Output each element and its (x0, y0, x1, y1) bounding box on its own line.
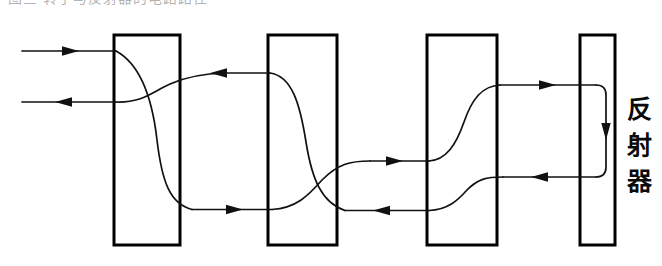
reflector-label-char-3: 器 (622, 164, 656, 200)
rotor-reflector-diagram: 图三 转子与反射器的电路路径 (0, 0, 662, 266)
rotor-2-block[interactable] (268, 35, 337, 245)
path-rotor3-upper-rise (429, 85, 500, 161)
reflector-return-arrow-icon (531, 172, 548, 181)
r1-r2-lower-arrow-icon (226, 205, 243, 214)
reflector-block[interactable] (580, 35, 615, 245)
rotor-3-block[interactable] (427, 35, 497, 245)
reflector-label-char-1: 反 (622, 92, 656, 128)
r1-r2-upper-arrow-icon (210, 68, 227, 77)
input-arrow-icon (62, 46, 79, 55)
reflector-label-char-2: 射 (622, 128, 656, 164)
rotor-blocks (114, 35, 615, 245)
output-arrow-icon (55, 97, 72, 106)
path-rotor1-lower-to-upper (116, 73, 225, 102)
path-rotor2-lower-to-upper (272, 161, 370, 210)
path-rotor3-lower-rise (429, 177, 503, 211)
signal-paths (22, 51, 606, 211)
arrow-heads (55, 46, 611, 215)
reflector-down-arrow-icon (601, 123, 610, 140)
diagram-canvas (0, 0, 662, 266)
path-rotor2-upper-to-lower (270, 73, 345, 211)
r2-r3-upper-arrow-icon (386, 156, 403, 165)
rotor-1-block[interactable] (114, 35, 180, 245)
reflector-label: 反 射 器 (622, 92, 656, 200)
r3-reflector-arrow-icon (539, 80, 556, 89)
r2-r3-lower-arrow-icon (373, 206, 390, 215)
